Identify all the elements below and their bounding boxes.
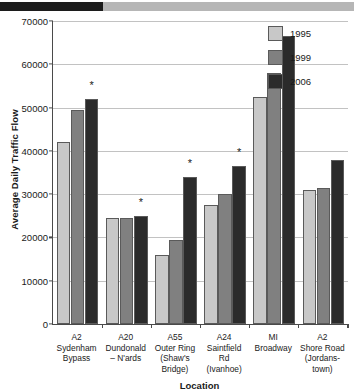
x-tick-mark bbox=[151, 324, 152, 328]
progress-bar-track bbox=[0, 2, 354, 11]
y-tick-label: 50000 bbox=[22, 102, 48, 113]
y-tick-label: 40000 bbox=[22, 145, 48, 156]
x-tick-mark bbox=[298, 324, 299, 328]
y-tick-label: 20000 bbox=[22, 232, 48, 243]
bar bbox=[317, 188, 331, 324]
y-tick-label: 30000 bbox=[22, 189, 48, 200]
x-axis-category-labels: A2SydenhamBypassA20Dundonald– N'ardsA55O… bbox=[52, 332, 347, 382]
bar bbox=[303, 190, 317, 324]
bar bbox=[71, 110, 85, 324]
x-axis-category-label: A24SaintfieldRd(Ivanhoe) bbox=[200, 332, 249, 374]
bar-group: * bbox=[201, 21, 250, 324]
bar bbox=[183, 177, 197, 324]
legend: 199519992006 bbox=[268, 26, 346, 98]
chart-page: Average Daily Traffic Flow 0100002000030… bbox=[0, 0, 354, 389]
bar bbox=[85, 99, 99, 324]
bar bbox=[331, 160, 345, 324]
x-tick-mark bbox=[347, 324, 348, 328]
y-tick-label: 70000 bbox=[22, 16, 48, 27]
progress-bar-fill bbox=[0, 2, 103, 11]
x-tick-mark bbox=[249, 324, 250, 328]
x-axis-category-label: MIBroadway bbox=[249, 332, 298, 353]
bar bbox=[204, 205, 218, 324]
legend-label: 1999 bbox=[290, 52, 311, 63]
significance-marker: * bbox=[237, 148, 241, 156]
bar bbox=[155, 255, 169, 324]
bar bbox=[134, 216, 148, 324]
bar-group: * bbox=[53, 21, 102, 324]
x-axis-title: Location bbox=[52, 380, 347, 389]
bar bbox=[267, 73, 281, 324]
y-axis-title: Average Daily Traffic Flow bbox=[9, 70, 20, 270]
x-tick-mark bbox=[200, 324, 201, 328]
legend-swatch bbox=[268, 74, 283, 89]
x-axis-category-label: A2Shore Road(Jordans-town) bbox=[298, 332, 347, 374]
x-axis-category-label: A55Outer Ring(Shaw'sBridge) bbox=[150, 332, 199, 374]
legend-item: 1995 bbox=[268, 26, 346, 41]
legend-label: 1995 bbox=[290, 28, 311, 39]
bar-chart: Average Daily Traffic Flow 0100002000030… bbox=[0, 14, 354, 389]
legend-swatch bbox=[268, 26, 283, 41]
bar bbox=[57, 142, 71, 324]
y-tick-label: 60000 bbox=[22, 59, 48, 70]
bar bbox=[169, 240, 183, 324]
x-axis-category-label: A2SydenhamBypass bbox=[52, 332, 101, 364]
significance-marker: * bbox=[139, 198, 143, 206]
significance-marker: * bbox=[90, 81, 94, 89]
y-tick-label: 0 bbox=[43, 319, 48, 330]
bar bbox=[106, 218, 120, 324]
bar bbox=[120, 218, 134, 324]
y-tick-label: 10000 bbox=[22, 275, 48, 286]
significance-marker: * bbox=[188, 159, 192, 167]
bar-group: * bbox=[151, 21, 200, 324]
bar-group: * bbox=[102, 21, 151, 324]
x-tick-mark bbox=[102, 324, 103, 328]
x-axis-category-label: A20Dundonald– N'ards bbox=[101, 332, 150, 364]
bar bbox=[232, 166, 246, 324]
legend-item: 1999 bbox=[268, 50, 346, 65]
bar bbox=[253, 97, 267, 324]
legend-swatch bbox=[268, 50, 283, 65]
legend-item: 2006 bbox=[268, 74, 346, 89]
bar bbox=[218, 194, 232, 324]
legend-label: 2006 bbox=[290, 76, 311, 87]
